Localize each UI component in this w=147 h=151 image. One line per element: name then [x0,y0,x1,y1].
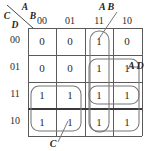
cell-r0-c1: 0 [67,35,73,47]
row-header-10: 10 [10,115,20,126]
cell-r0-c0: 0 [39,35,45,47]
column-header-01: 01 [65,15,75,26]
axis-var-c: C [4,11,11,21]
column-header-10: 10 [122,15,132,26]
cell-r2-c1: 1 [67,89,73,101]
group-label-c: C [50,138,57,149]
axis-var-b: B [29,11,36,21]
axis-var-d: D [11,20,19,30]
karnaugh-map-figure: A B C D 00 01 11 10 00 01 11 10 [0,0,147,151]
group-label-ab: A B [98,1,115,12]
axis-var-a: A [21,2,28,12]
row-headers: 00 01 11 10 [10,34,20,126]
row-header-01: 01 [10,61,20,72]
cell-r3-c2: 1 [96,116,102,128]
cell-r1-c0: 0 [39,62,45,74]
cell-r1-c2: 1 [96,62,102,74]
cell-r2-c3: 1 [124,89,130,101]
karnaugh-map-canvas: A B C D 00 01 11 10 00 01 11 10 [0,0,147,151]
column-headers: 00 01 11 10 [37,15,132,26]
column-header-00: 00 [37,15,47,26]
cell-r2-c0: 1 [39,89,45,101]
axis-corner-block: A B C D [4,2,36,30]
cell-r1-c1: 0 [67,62,73,74]
cell-r0-c3: 0 [124,35,130,47]
cell-r3-c0: 1 [39,116,45,128]
cell-r2-c2: 1 [96,89,102,101]
group-label-ad: A D [127,60,144,71]
row-header-00: 00 [10,34,20,45]
row-header-11: 11 [10,88,20,99]
cell-r3-c3: 1 [124,116,130,128]
column-header-11: 11 [94,15,104,26]
